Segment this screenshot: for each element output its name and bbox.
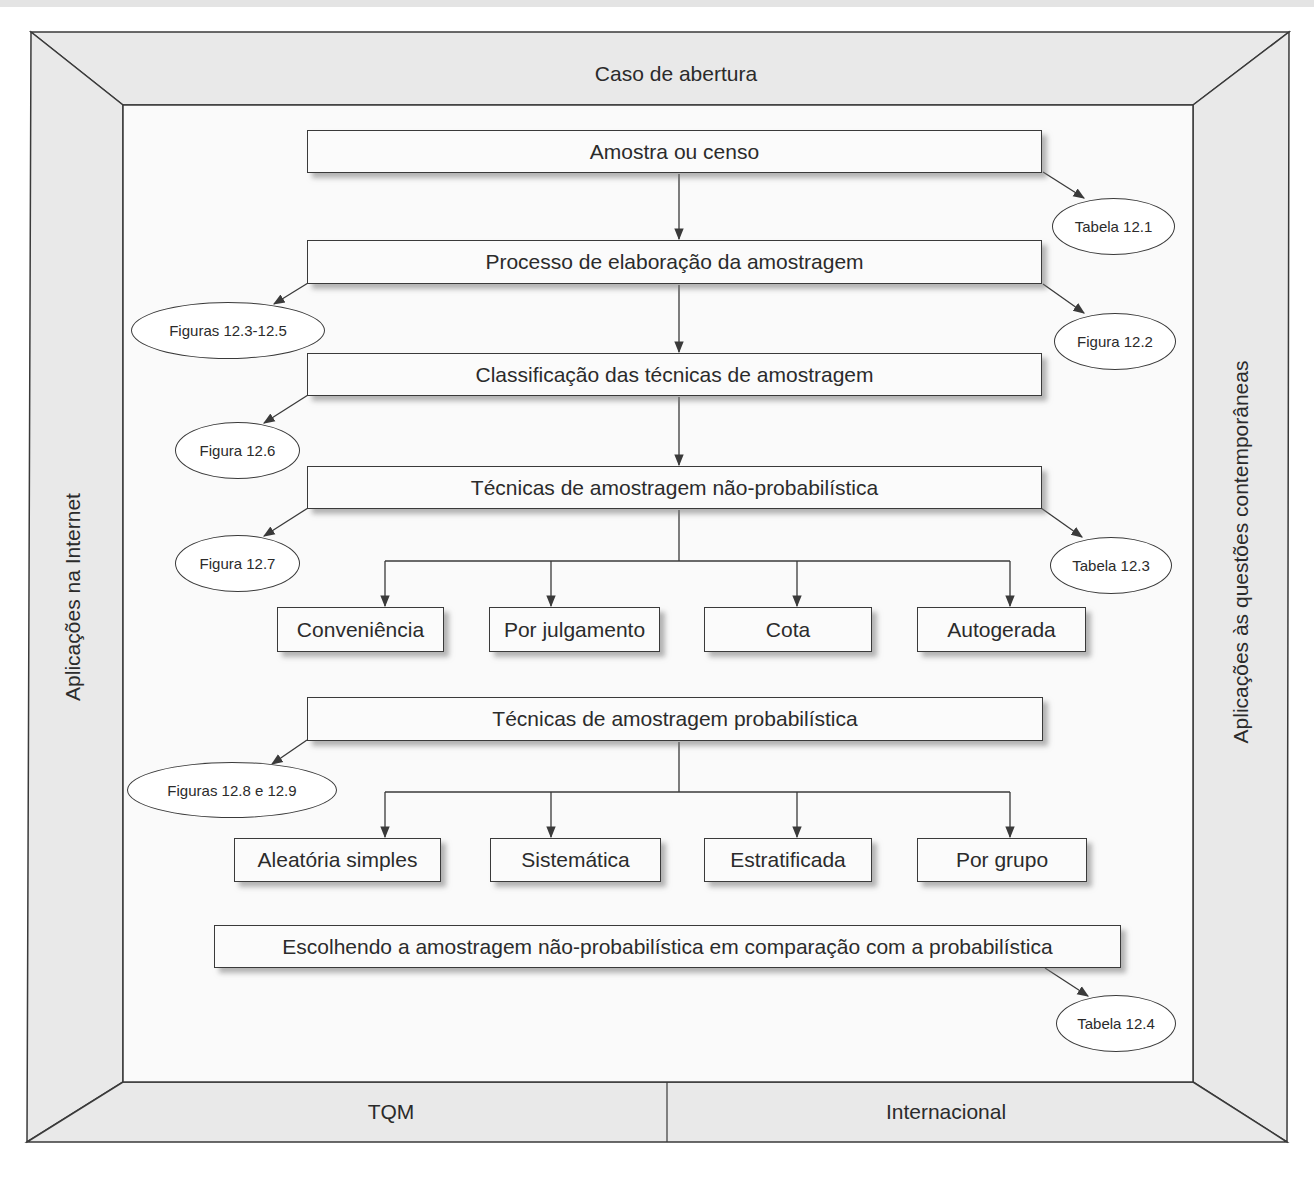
frame-left-label: Aplicações na Internet [61,493,85,701]
box-por-grupo: Por grupo [917,838,1087,882]
box-processo-elaboracao: Processo de elaboração da amostragem [307,240,1042,284]
ref-figura-12-7: Figura 12.7 [175,535,300,592]
ref-tabela-12-3: Tabela 12.3 [1050,537,1172,594]
box-autogerada: Autogerada [917,607,1086,652]
ref-figuras-12-3-12-5: Figuras 12.3-12.5 [131,302,325,359]
ref-tabela-12-1: Tabela 12.1 [1052,198,1175,255]
ref-figura-12-6: Figura 12.6 [175,422,300,479]
box-aleatoria-simples: Aleatória simples [234,838,441,882]
box-estratificada: Estratificada [704,838,872,882]
box-amostra-censo: Amostra ou censo [307,130,1042,173]
box-escolhendo: Escolhendo a amostragem não-probabilísti… [214,925,1121,968]
ref-figura-12-2: Figura 12.2 [1054,313,1176,370]
box-cota: Cota [704,607,872,652]
box-conveniencia: Conveniência [277,607,444,652]
box-por-julgamento: Por julgamento [489,607,660,652]
frame-bottom-right-label: Internacional [886,1100,1006,1124]
frame-bottom-left-label: TQM [368,1100,415,1124]
box-probabilistica: Técnicas de amostragem probabilística [307,697,1043,741]
frame-right-label: Aplicações às questões contemporâneas [1229,361,1253,744]
frame-top-label: Caso de abertura [595,62,757,86]
ref-figuras-12-8-e-12-9: Figuras 12.8 e 12.9 [127,762,337,818]
box-sistematica: Sistemática [490,838,661,882]
ref-tabela-12-4: Tabela 12.4 [1056,995,1176,1052]
box-nao-probabilistica: Técnicas de amostragem não-probabilístic… [307,466,1042,509]
bottom-band [27,1082,1287,1142]
box-classificacao-tecnicas: Classificação das técnicas de amostragem [307,353,1042,396]
